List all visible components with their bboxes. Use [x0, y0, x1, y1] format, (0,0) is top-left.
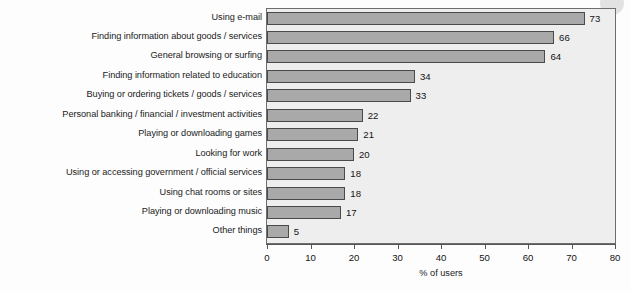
- bar: [267, 70, 415, 83]
- x-axis-tick: [311, 244, 312, 249]
- bar: [267, 225, 289, 238]
- category-label: Other things: [0, 225, 262, 236]
- category-label: Finding information related to education: [0, 70, 262, 81]
- category-label: Buying or ordering tickets / goods / ser…: [0, 89, 262, 100]
- bar: [267, 50, 545, 63]
- x-axis-tick: [615, 244, 616, 249]
- bar: [267, 12, 585, 25]
- category-label-axis: Using e-mailFinding information about go…: [0, 8, 262, 244]
- x-axis-tick-label: 60: [523, 252, 534, 264]
- category-label: Playing or downloading music: [0, 206, 262, 217]
- bar-value-label: 34: [420, 70, 431, 83]
- x-axis-tick: [441, 244, 442, 249]
- bar-value-label: 18: [350, 187, 361, 200]
- bar: [267, 89, 411, 102]
- x-axis-tick: [267, 244, 268, 249]
- x-axis-tick-label: 50: [479, 252, 490, 264]
- plot-area: 73666434332221201818175: [266, 8, 616, 244]
- bar-value-label: 18: [350, 167, 361, 180]
- bar-value-label: 73: [590, 12, 601, 25]
- x-axis-tick: [354, 244, 355, 249]
- category-label: General browsing or surfing: [0, 50, 262, 61]
- category-label: Personal banking / financial / investmen…: [0, 109, 262, 120]
- x-axis: % of users 01020304050607080: [266, 244, 616, 292]
- x-axis-tick-label: 40: [436, 252, 447, 264]
- bar-value-label: 33: [416, 89, 427, 102]
- bar: [267, 109, 363, 122]
- x-axis-tick: [572, 244, 573, 249]
- x-axis-tick: [528, 244, 529, 249]
- x-axis-tick-label: 0: [264, 252, 269, 264]
- bar-value-label: 17: [346, 206, 357, 219]
- bar: [267, 206, 341, 219]
- bar-value-label: 66: [559, 31, 570, 44]
- bar-value-label: 21: [363, 128, 374, 141]
- x-axis-tick: [398, 244, 399, 249]
- category-label: Using chat rooms or sites: [0, 187, 262, 198]
- bar-value-label: 5: [294, 225, 299, 238]
- category-label: Looking for work: [0, 148, 262, 159]
- x-axis-tick-label: 30: [392, 252, 403, 264]
- x-axis-tick-label: 80: [610, 252, 621, 264]
- bar-value-label: 20: [359, 148, 370, 161]
- category-label: Finding information about goods / servic…: [0, 31, 262, 42]
- x-axis-tick-label: 20: [349, 252, 360, 264]
- x-axis-tick-label: 70: [566, 252, 577, 264]
- category-label: Using or accessing government / official…: [0, 167, 262, 178]
- bar: [267, 31, 554, 44]
- bar-value-label: 64: [550, 50, 561, 63]
- bar: [267, 128, 358, 141]
- category-label: Using e-mail: [0, 12, 262, 23]
- x-axis-tick-label: 10: [305, 252, 316, 264]
- x-axis-tick: [485, 244, 486, 249]
- bar: [267, 148, 354, 161]
- bar-value-label: 22: [368, 109, 379, 122]
- bar: [267, 187, 345, 200]
- bar: [267, 167, 345, 180]
- chart-page: Using e-mailFinding information about go…: [0, 0, 631, 292]
- category-label: Playing or downloading games: [0, 128, 262, 139]
- x-axis-title: % of users: [266, 268, 616, 278]
